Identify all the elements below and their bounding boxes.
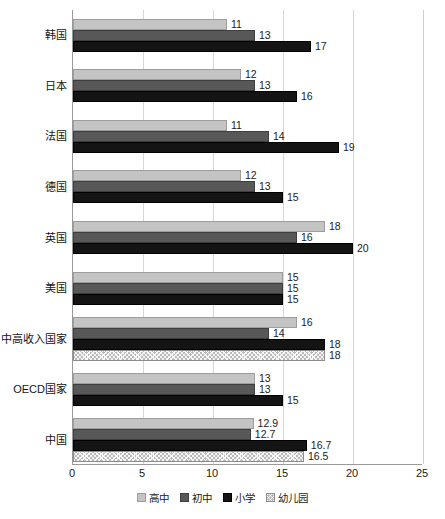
legend-item[interactable]: 幼儿园 xyxy=(266,490,308,505)
bar xyxy=(73,30,255,41)
bar xyxy=(73,283,283,294)
bar xyxy=(73,181,255,192)
bar xyxy=(73,350,325,361)
bar-value-label: 20 xyxy=(353,243,369,254)
bar-group: 美国151515 xyxy=(73,272,422,305)
bar-value-label: 16 xyxy=(297,232,313,243)
bar-value-label: 15 xyxy=(283,395,299,406)
category-label: 法国 xyxy=(45,130,67,142)
bar-value-label: 11 xyxy=(227,120,242,131)
bar-value-label: 15 xyxy=(283,272,299,283)
bar xyxy=(73,418,254,429)
bar-group: 法国111419 xyxy=(73,120,422,153)
x-tick-label-20: 20 xyxy=(346,467,358,480)
bar xyxy=(73,41,311,52)
bar-group: 英国181620 xyxy=(73,221,422,254)
bar-value-label: 13 xyxy=(255,373,271,384)
bar xyxy=(73,272,283,283)
bar xyxy=(73,429,251,440)
bar xyxy=(73,232,297,243)
bar xyxy=(73,192,283,203)
bar-value-label: 12.7 xyxy=(251,429,275,440)
bar xyxy=(73,69,241,80)
legend-item[interactable]: 小学 xyxy=(223,490,255,505)
bar-value-label: 13 xyxy=(255,384,271,395)
bar-value-label: 15 xyxy=(283,283,299,294)
legend-label: 初中 xyxy=(192,490,212,505)
bar-value-label: 17 xyxy=(311,41,327,52)
x-tick-label-5: 5 xyxy=(139,467,145,480)
bar xyxy=(73,451,304,462)
category-label: 美国 xyxy=(45,282,67,294)
bar xyxy=(73,80,255,91)
x-tick-label-10: 10 xyxy=(206,467,218,480)
bar-value-label: 15 xyxy=(283,294,299,305)
category-label: 德国 xyxy=(45,181,67,193)
bar xyxy=(73,91,297,102)
bar-value-label: 18 xyxy=(325,350,341,361)
category-label: OECD国家 xyxy=(13,383,67,395)
legend-swatch-icon xyxy=(180,493,189,502)
bar-value-label: 16 xyxy=(297,317,313,328)
bar-group: 日本121316 xyxy=(73,69,422,102)
bar xyxy=(73,339,325,350)
legend-swatch-icon xyxy=(266,493,275,502)
bar-chart: 韩国111317日本121316法国111419德国121315英国181620… xyxy=(0,0,445,519)
bar xyxy=(73,221,325,232)
plot-area: 韩国111317日本121316法国111419德国121315英国181620… xyxy=(72,10,422,465)
legend-swatch-icon xyxy=(223,493,232,502)
legend-item[interactable]: 初中 xyxy=(180,490,212,505)
bar-value-label: 11 xyxy=(227,19,242,30)
legend-item[interactable]: 高中 xyxy=(137,490,169,505)
bar-group: 韩国111317 xyxy=(73,19,422,52)
bar xyxy=(73,19,227,30)
category-label: 中国 xyxy=(45,434,67,446)
bar-value-label: 16 xyxy=(297,91,313,102)
category-label: 日本 xyxy=(45,80,67,92)
legend-swatch-icon xyxy=(137,493,146,502)
bar xyxy=(73,142,339,153)
category-label: 韩国 xyxy=(45,29,67,41)
bar xyxy=(73,131,269,142)
bar xyxy=(73,294,283,305)
bar xyxy=(73,243,353,254)
bar xyxy=(73,440,307,451)
bar xyxy=(73,120,227,131)
category-label: 英国 xyxy=(45,232,67,244)
bar-value-label: 14 xyxy=(269,328,285,339)
category-label: 中高收入国家 xyxy=(1,333,67,345)
x-tick-label-0: 0 xyxy=(69,467,75,480)
bar xyxy=(73,384,255,395)
bar-value-label: 13 xyxy=(255,30,271,41)
legend-label: 高中 xyxy=(149,490,169,505)
bar-value-label: 12 xyxy=(241,69,257,80)
bar-value-label: 16.5 xyxy=(304,451,328,462)
bar-value-label: 18 xyxy=(325,339,341,350)
bar-value-label: 12 xyxy=(241,170,257,181)
bar-group: OECD国家131315 xyxy=(73,373,422,406)
bar-value-label: 14 xyxy=(269,131,285,142)
bar-value-label: 18 xyxy=(325,221,341,232)
bar xyxy=(73,395,283,406)
x-tick-label-15: 15 xyxy=(276,467,288,480)
bar-group: 德国121315 xyxy=(73,170,422,203)
bar xyxy=(73,317,297,328)
legend-label: 幼儿园 xyxy=(278,490,308,505)
bar xyxy=(73,328,269,339)
bar-value-label: 13 xyxy=(255,181,271,192)
bar-group: 中高收入国家16141818 xyxy=(73,317,422,361)
x-axis: 0510152025 xyxy=(72,467,422,483)
chart-legend: 高中初中小学幼儿园 xyxy=(0,490,445,505)
legend-label: 小学 xyxy=(235,490,255,505)
bar-value-label: 13 xyxy=(255,80,271,91)
bar-group: 中国12.912.716.716.5 xyxy=(73,418,422,462)
x-tick-label-25: 25 xyxy=(416,467,428,480)
gridline-25 xyxy=(423,10,424,464)
bar-value-label: 19 xyxy=(339,142,355,153)
bar-value-label: 15 xyxy=(283,192,299,203)
bar xyxy=(73,373,255,384)
bar xyxy=(73,170,241,181)
